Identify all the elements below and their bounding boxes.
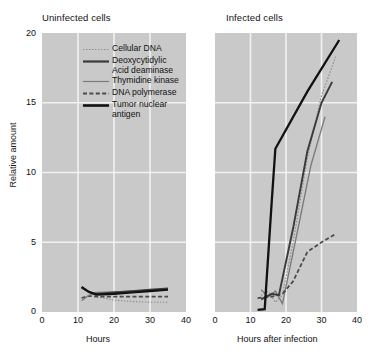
y-tick-5: 5 xyxy=(14,237,36,247)
x-tick-right-10: 10 xyxy=(240,315,262,325)
legend-item-deoxycytidylic-acid-deaminase: Deoxycytidylic Acid deaminase xyxy=(83,56,186,75)
legend-swatch-solid-thick-icon xyxy=(83,100,109,111)
legend-swatch-dashed-icon xyxy=(83,88,109,99)
series-tumor-nuclear-antigen xyxy=(82,287,168,295)
x-tick-right-30: 30 xyxy=(311,315,333,325)
legend-label-tumor-antigen-line1: Tumor nuclear xyxy=(112,99,167,109)
plot-area-infected xyxy=(215,33,357,312)
legend-item-dna-polymerase: DNA polymerase xyxy=(83,88,186,99)
x-tick-right-20: 20 xyxy=(275,315,297,325)
legend-label-dna-polymerase: DNA polymerase xyxy=(112,88,176,98)
x-tick-right-40: 40 xyxy=(346,315,368,325)
legend-label-tumor-antigen-line2: antigen xyxy=(112,109,140,119)
legend-label-thymidine-kinase: Thymidine kinase xyxy=(112,76,179,86)
legend-label-deoxycytidylic-line2: Acid deaminase xyxy=(112,65,173,75)
gridlines xyxy=(215,33,357,312)
legend-item-tumor-nuclear-antigen: Tumor nuclear antigen xyxy=(83,100,186,119)
x-tick-left-0: 0 xyxy=(31,315,53,325)
y-axis-label: Relative amount xyxy=(8,115,18,195)
panel-title-infected: Infected cells xyxy=(226,12,283,23)
y-tick-20: 20 xyxy=(14,28,36,38)
panel-title-uninfected: Uninfected cells xyxy=(42,12,111,23)
legend: Cellular DNA Deoxycytidylic Acid deamina… xyxy=(83,44,186,120)
x-tick-left-30: 30 xyxy=(139,315,161,325)
legend-swatch-solid-medium-icon xyxy=(83,56,109,67)
y-tick-15: 15 xyxy=(14,97,36,107)
legend-label-cellular-dna: Cellular DNA xyxy=(112,44,162,54)
legend-swatch-fine-dotted-icon xyxy=(83,44,109,55)
x-axis-label-uninfected: Hours xyxy=(86,334,110,344)
x-tick-right-0: 0 xyxy=(204,315,226,325)
x-tick-left-10: 10 xyxy=(67,315,89,325)
plot-svg-infected xyxy=(215,33,357,312)
series-dna-polymerase xyxy=(82,296,168,298)
legend-swatch-solid-thin-icon xyxy=(83,76,109,87)
figure-root: Uninfected cells Infected cells Relative… xyxy=(0,0,371,358)
x-tick-left-20: 20 xyxy=(103,315,125,325)
y-tick-10: 10 xyxy=(14,167,36,177)
x-axis-label-infected: Hours after infection xyxy=(237,334,318,344)
x-tick-left-40: 40 xyxy=(175,315,197,325)
legend-item-thymidine-kinase: Thymidine kinase xyxy=(83,76,186,87)
legend-label-deoxycytidylic-line1: Deoxycytidylic xyxy=(112,55,166,65)
legend-item-cellular-dna: Cellular DNA xyxy=(83,44,186,55)
